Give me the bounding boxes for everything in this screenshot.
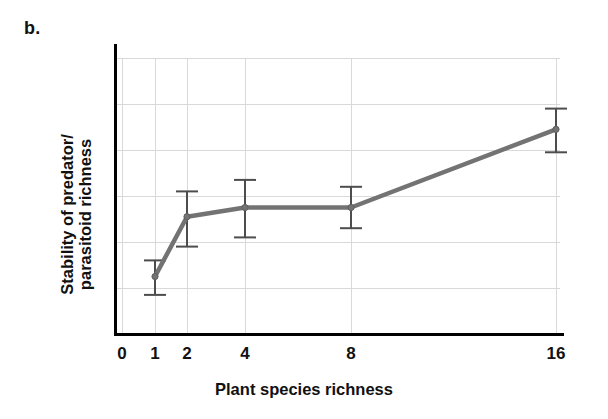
plot-area: 1.71.92.12.32.52.72.9 0124816 bbox=[116, 58, 560, 334]
x-tick-label: 2 bbox=[182, 344, 191, 364]
data-point-marker bbox=[553, 126, 559, 132]
data-point-marker bbox=[348, 204, 354, 210]
x-tick-label: 8 bbox=[346, 344, 355, 364]
y-axis-title-line1: Stability of predator/ bbox=[58, 64, 76, 364]
x-tick-label: 4 bbox=[240, 344, 249, 364]
data-point-marker bbox=[184, 214, 190, 220]
x-tick-label: 16 bbox=[547, 344, 566, 364]
figure-panel-b: b. Stability of predator/ parasitoid ric… bbox=[0, 0, 608, 419]
series-line bbox=[155, 129, 556, 276]
y-axis-title-line2: parasitoid richness bbox=[76, 64, 94, 364]
x-tick-label: 0 bbox=[117, 344, 126, 364]
y-axis-title: Stability of predator/ parasitoid richne… bbox=[58, 64, 95, 364]
data-point-marker bbox=[152, 273, 158, 279]
panel-label: b. bbox=[24, 18, 41, 39]
x-tick-label: 1 bbox=[150, 344, 159, 364]
data-point-marker bbox=[242, 204, 248, 210]
series-and-errorbars bbox=[116, 58, 560, 334]
x-axis-title: Plant species richness bbox=[0, 380, 608, 399]
